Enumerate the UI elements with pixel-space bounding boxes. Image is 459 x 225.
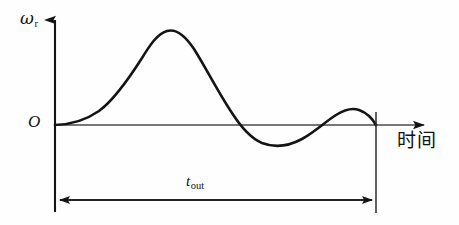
omega-subscript: r [34,18,38,29]
x-axis-label: 时间 [397,131,436,150]
t-symbol: t [186,173,190,189]
figure-container: ωr O 时间 tout [0,0,459,225]
settling-time-label: tout [186,174,204,192]
origin-label: O [28,113,40,130]
omega-symbol: ω [20,8,34,28]
response-curve-plot [0,0,459,225]
t-subscript: out [191,180,204,191]
y-axis-label: ωr [20,10,38,30]
response-curve-path [55,30,376,145]
